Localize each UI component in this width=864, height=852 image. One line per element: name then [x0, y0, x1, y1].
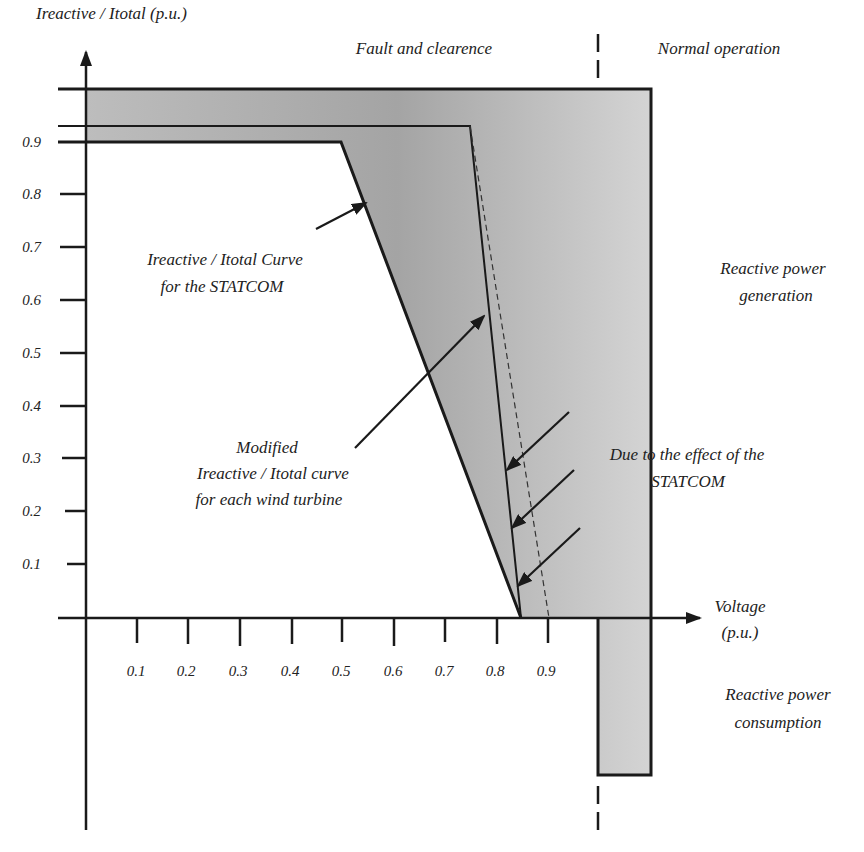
- x-tick-label: 0.6: [384, 663, 403, 679]
- y-tick-label: 0.6: [22, 292, 41, 308]
- x-tick-label: 0.2: [177, 663, 196, 679]
- x-tick-label: 0.7: [435, 663, 455, 679]
- x-tick-label: 0.9: [537, 663, 556, 679]
- y-tick-label: 0.9: [22, 134, 41, 150]
- reactive-current-diagram: Ireactive / Itotal (p.u.) Voltage (p.u.)…: [0, 0, 864, 852]
- y-tick-label: 0.1: [22, 556, 41, 572]
- statcom-curve-arrow: [316, 203, 366, 229]
- normal-region-label: Normal operation: [657, 39, 780, 58]
- y-tick-label: 0.8: [22, 186, 41, 202]
- x-tick-label: 0.5: [332, 663, 351, 679]
- fault-region-label: Fault and clearence: [355, 39, 493, 58]
- x-axis-title-line2: (p.u.): [722, 623, 759, 642]
- modified-curve-label-line1: Modified: [235, 438, 298, 457]
- modified-curve-label-line2: Ireactive / Itotal curve: [196, 464, 349, 483]
- x-tick-label: 0.4: [281, 663, 300, 679]
- y-tick-labels: 0.9 0.8 0.7 0.6 0.5 0.4 0.3 0.2 0.1: [22, 134, 42, 572]
- x-axis-title-line1: Voltage: [715, 597, 766, 616]
- effect-label-line2: STATCOM: [651, 472, 726, 491]
- x-tick-labels: 0.1 0.2 0.3 0.4 0.5 0.6 0.7 0.8 0.9: [127, 663, 556, 679]
- y-tick-label: 0.5: [22, 345, 41, 361]
- x-tick-label: 0.8: [486, 663, 505, 679]
- x-tick-label: 0.1: [127, 663, 146, 679]
- shaded-envelope: [86, 89, 651, 775]
- y-tick-label: 0.3: [22, 450, 41, 466]
- generation-label-line2: generation: [739, 286, 813, 305]
- effect-label-line1: Due to the effect of the: [609, 445, 765, 464]
- statcom-curve-label-line2: for the STATCOM: [161, 277, 285, 296]
- statcom-curve-label-line1: Ireactive / Itotal Curve: [146, 250, 303, 269]
- y-ticks: [60, 194, 86, 564]
- consumption-label-line1: Reactive power: [724, 685, 831, 704]
- x-tick-label: 0.3: [229, 663, 248, 679]
- consumption-label-line2: consumption: [735, 713, 822, 732]
- y-axis-title: Ireactive / Itotal (p.u.): [35, 4, 187, 23]
- y-tick-label: 0.4: [22, 398, 41, 414]
- y-tick-label: 0.2: [22, 503, 41, 519]
- generation-label-line1: Reactive power: [719, 259, 826, 278]
- modified-curve-label-line3: for each wind turbine: [196, 490, 343, 509]
- x-ticks: [137, 618, 548, 646]
- y-tick-label: 0.7: [22, 239, 42, 255]
